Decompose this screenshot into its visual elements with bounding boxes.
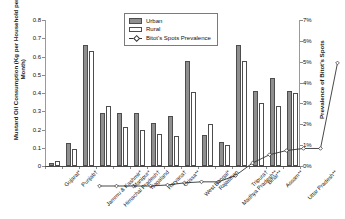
prevalence-marker [268,153,272,157]
y-axis-left-tick-label: 0.3 [23,108,41,114]
prevalence-marker [285,149,289,153]
legend-swatch-urban-icon [129,18,142,24]
y-axis-left-tick-label: 0 [23,163,41,169]
legend-item-urban: Urban [129,17,211,26]
prevalence-line [100,63,338,186]
y-axis-left-tick-label: 0.8 [23,17,41,23]
chart-legend: Urban Rural Bitot's Spots Prevalence [124,13,218,46]
y-axis-left-tick-label: 0.6 [23,54,41,60]
prevalence-marker [336,61,340,65]
y-axis-left-tick-label: 0.1 [23,145,41,151]
bar-group [63,20,80,166]
x-axis-label: Gujarat* [63,169,82,188]
y-axis-left-tick-label: 0.7 [23,35,41,41]
prevalence-marker [319,147,323,151]
legend-label-prevalence: Bitot's Spots Prevalence [146,35,211,41]
prevalence-marker [302,147,306,151]
prevalence-marker [98,184,102,188]
legend-label-urban: Urban [146,18,162,24]
bar-rural [72,149,77,166]
legend-item-rural: Rural [129,25,211,34]
legend-item-prevalence: Bitot's Spots Prevalence [129,34,211,43]
bar-urban [66,143,71,166]
legend-swatch-rural-icon [129,27,142,33]
bar-group [46,20,63,166]
y-axis-left-tick-label: 0.4 [23,90,41,96]
y-axis-right-tick-label: 7% [303,17,323,23]
legend-label-rural: Rural [146,26,160,32]
prevalence-marker [115,184,119,188]
y-axis-left-tick-label: 0.5 [23,72,41,78]
x-axis-baseline [45,166,300,167]
prevalence-marker [200,180,204,184]
y-axis-left-tick-label: 0.2 [23,127,41,133]
legend-line-marker-icon [129,35,142,41]
bar-urban [83,45,88,166]
line-series-layer [91,40,345,186]
